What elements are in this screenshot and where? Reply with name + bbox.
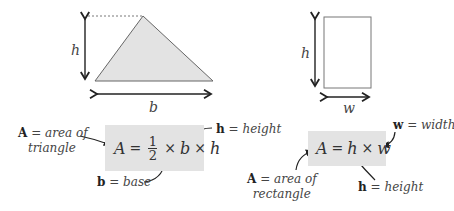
triangle-height-label: h <box>71 43 80 57</box>
rectangle-width-label: w <box>343 101 355 115</box>
triangle-shape <box>95 16 213 81</box>
triangle-formula: A = 12 × b × h <box>114 130 220 166</box>
triangle-area-note: A = area of triangle <box>18 126 88 156</box>
triangle-base-label: b <box>149 100 158 114</box>
rectangle-width-note: w = width <box>393 118 454 133</box>
rectangle-height-note: h = height <box>358 180 423 195</box>
triangle-base-note: b = base <box>97 175 151 190</box>
area-formulas-diagram: h b A = 12 × b × h A = area of triangle … <box>0 0 454 211</box>
one-half-fraction: 12 <box>148 135 157 162</box>
rectangle-height-label: h <box>301 46 310 60</box>
rectangle-shape <box>324 17 371 88</box>
rectangle-formula: A = h × w <box>316 137 391 159</box>
triangle-height-note: h = height <box>216 122 281 137</box>
rectangle-area-note: A = area of rectangle <box>247 172 317 202</box>
